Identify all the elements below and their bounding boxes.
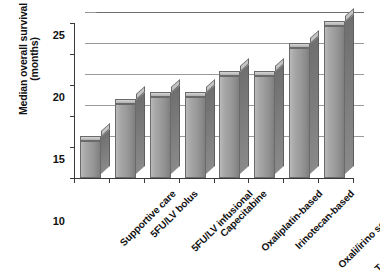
x-tick-mark [283, 178, 284, 183]
bar-top-face [289, 43, 310, 48]
bar-front-face [80, 141, 101, 178]
x-axis-label: Irinotecan-based [293, 188, 356, 251]
bar [150, 97, 171, 178]
bar-top-face [324, 21, 345, 26]
x-axis-label: Oxali/irino sequencing [336, 188, 380, 270]
bar [324, 26, 345, 178]
bar-top-face [80, 136, 101, 141]
bar-front-face [219, 76, 240, 178]
x-tick-mark [248, 178, 249, 183]
y-axis-title: Median overall survival (months) [12, 0, 46, 144]
x-axis-label: 5FU/LV bolus [149, 188, 201, 240]
y-axis-title-line2: (months) [29, 37, 40, 81]
bar-top-face [254, 71, 275, 76]
bar-top-face [115, 99, 136, 104]
bar [185, 97, 206, 178]
bar [80, 141, 101, 178]
x-axis-label: Supportive care [117, 188, 177, 248]
y-tick-label: 15 [53, 153, 65, 165]
bar-chart: Median overall survival (months) 0510152… [0, 0, 380, 278]
bar [254, 76, 275, 178]
x-axis-label: Capecitabine [218, 188, 269, 239]
bar [115, 104, 136, 178]
bar [219, 76, 240, 178]
bar-front-face [254, 76, 275, 178]
bars-group [74, 12, 364, 190]
bar-side-face [171, 85, 180, 174]
x-tick-mark [144, 178, 145, 183]
x-axis-label: Oxaliplatin-based [259, 188, 325, 254]
x-axis-label: Targeted therapy-based [372, 188, 380, 274]
x-tick-mark [179, 178, 180, 183]
bar-front-face [115, 104, 136, 178]
bar-side-face [310, 36, 319, 174]
bar-top-face [185, 92, 206, 97]
x-tick-mark [353, 178, 354, 183]
x-axis-label: 5FU/LV infusional [189, 188, 255, 254]
bar-side-face [275, 64, 284, 174]
bar-top-face [219, 71, 240, 76]
bar-top-face [150, 92, 171, 97]
plot-area: 0510152025 [74, 12, 364, 190]
bar-front-face [289, 48, 310, 178]
x-tick-mark [318, 178, 319, 183]
y-tick-label: 20 [53, 91, 65, 103]
bar-side-face [240, 64, 249, 174]
bar-front-face [324, 26, 345, 178]
x-tick-mark [214, 178, 215, 183]
bar-side-face [206, 85, 215, 174]
x-tick-mark [109, 178, 110, 183]
bar [289, 48, 310, 178]
y-tick-label: 25 [53, 29, 65, 41]
x-tick-mark [74, 178, 75, 183]
bar-front-face [185, 97, 206, 178]
bar-side-face [136, 92, 145, 174]
bar-side-face [345, 14, 354, 174]
bar-front-face [150, 97, 171, 178]
y-tick-label: 10 [53, 215, 65, 227]
